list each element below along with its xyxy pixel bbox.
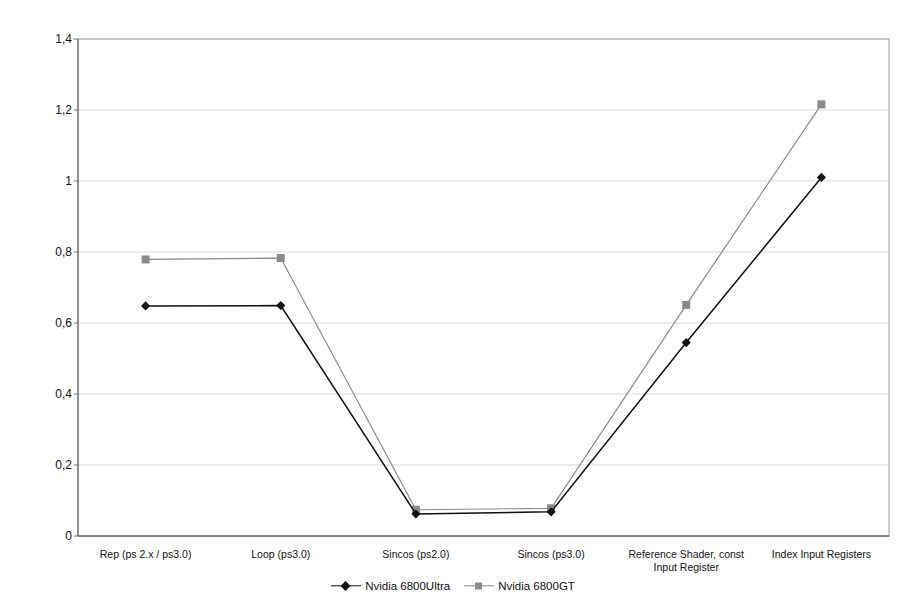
x-tick-label: Loop (ps3.0) bbox=[206, 548, 356, 561]
y-tick-label: 1,2 bbox=[26, 103, 72, 117]
x-tick-label: Sincos (ps2.0) bbox=[341, 548, 491, 561]
legend-label-ultra: Nvidia 6800Ultra bbox=[365, 580, 450, 592]
x-tick-label: Reference Shader, const Input Register bbox=[611, 548, 761, 574]
data-point-marker bbox=[817, 100, 825, 108]
chart-legend: Nvidia 6800Ultra Nvidia 6800GT bbox=[0, 580, 906, 592]
data-point-marker bbox=[277, 254, 285, 262]
plot-area bbox=[0, 0, 906, 607]
plot-background bbox=[78, 39, 889, 536]
data-point-marker bbox=[682, 301, 690, 309]
y-tick-label: 1 bbox=[26, 174, 72, 188]
x-tick-label: Index Input Registers bbox=[746, 548, 896, 561]
legend-marker-square-icon bbox=[464, 580, 494, 592]
legend-label-gt: Nvidia 6800GT bbox=[498, 580, 575, 592]
y-tick-label: 0,6 bbox=[26, 316, 72, 330]
legend-item-ultra[interactable]: Nvidia 6800Ultra bbox=[331, 580, 450, 592]
legend-marker-diamond-icon bbox=[331, 580, 361, 592]
y-tick-label: 0,8 bbox=[26, 245, 72, 259]
y-tick-label: 0 bbox=[26, 529, 72, 543]
chart-container: Time (in sec) for 1500 Quads (512x512) 0… bbox=[0, 0, 906, 607]
data-point-marker bbox=[142, 255, 150, 263]
y-tick-label: 1,4 bbox=[26, 32, 72, 46]
y-tick-label: 0,4 bbox=[26, 387, 72, 401]
legend-item-gt[interactable]: Nvidia 6800GT bbox=[464, 580, 575, 592]
y-axis-tick-labels: 00,20,40,60,811,21,4 bbox=[22, 0, 72, 607]
x-tick-label: Rep (ps 2.x / ps3.0) bbox=[71, 548, 221, 561]
y-tick-label: 0,2 bbox=[26, 458, 72, 472]
x-tick-label: Sincos (ps3.0) bbox=[476, 548, 626, 561]
